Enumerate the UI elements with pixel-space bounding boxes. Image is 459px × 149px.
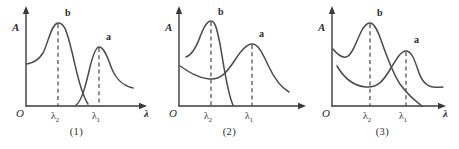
- y-axis-label-1: A: [11, 21, 19, 33]
- y-axis-arrow-2: [176, 6, 182, 14]
- peak-label-b-2: b: [218, 6, 224, 17]
- figure-row: A λ O b a λ2 λ1 (1) A O b a λ2: [0, 0, 459, 149]
- panel-caption-3: (3): [306, 126, 459, 137]
- tick-label-lambda1-1: λ1: [92, 110, 100, 123]
- y-axis-label-3: A: [317, 21, 325, 33]
- x-axis-arrow-2: [298, 103, 306, 109]
- curve-a-2: [180, 44, 289, 92]
- y-axis-label-2: A: [164, 21, 172, 33]
- panel-1: A λ O b a λ2 λ1 (1): [0, 0, 153, 149]
- panel-caption-1: (1): [0, 126, 153, 137]
- panel-2: A O b a λ2 λ1 (2): [153, 0, 306, 149]
- peak-label-b-3: b: [377, 7, 383, 18]
- x-axis-label-1: λ: [143, 107, 149, 119]
- origin-label-3: O: [322, 107, 330, 119]
- curve-b-3: [333, 23, 422, 106]
- curve-a-3: [337, 51, 443, 87]
- origin-label-2: O: [169, 107, 177, 119]
- peak-label-a-3: a: [414, 34, 419, 45]
- x-axis-label-3: λ: [442, 107, 448, 119]
- y-axis-arrow-1: [23, 6, 29, 14]
- tick-label-lambda1-2: λ1: [245, 110, 253, 123]
- curve-b-2: [186, 21, 233, 105]
- origin-label-1: O: [16, 107, 24, 119]
- tick-label-lambda2-1: λ2: [51, 110, 59, 123]
- y-axis-arrow-3: [329, 6, 335, 14]
- peak-label-b-1: b: [65, 7, 71, 18]
- tick-label-lambda2-3: λ2: [363, 110, 371, 123]
- tick-label-lambda2-2: λ2: [204, 110, 212, 123]
- panel-caption-2: (2): [153, 126, 306, 137]
- panel-3: A λ O b a λ2 λ1 (3): [306, 0, 459, 149]
- peak-label-a-2: a: [259, 28, 264, 39]
- peak-label-a-1: a: [106, 31, 111, 42]
- tick-label-lambda1-3: λ1: [399, 110, 407, 123]
